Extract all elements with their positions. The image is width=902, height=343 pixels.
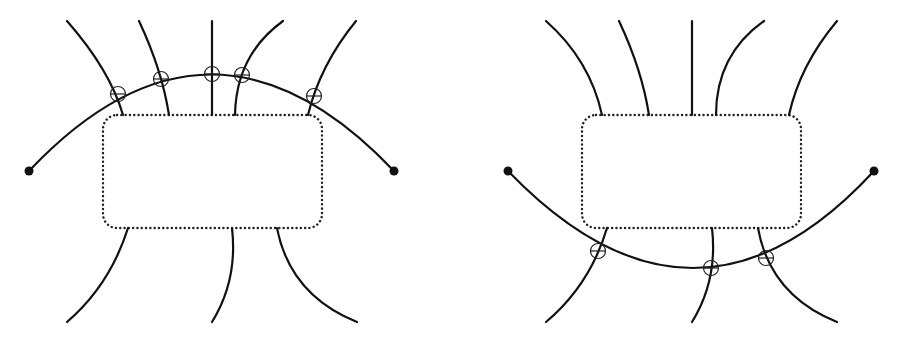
crossing-marker-icon bbox=[307, 89, 322, 104]
arc-curve bbox=[508, 171, 874, 268]
bottom-strand bbox=[758, 228, 837, 322]
top-strand bbox=[308, 21, 356, 115]
endpoint-dot bbox=[390, 167, 399, 176]
top-strand bbox=[789, 21, 837, 115]
right-panel bbox=[504, 21, 879, 322]
crossing-marker-icon bbox=[235, 68, 250, 83]
top-strand bbox=[619, 21, 649, 115]
dotted-region-box bbox=[103, 115, 322, 228]
diagram-svg bbox=[0, 0, 902, 343]
endpoint-dot bbox=[504, 167, 513, 176]
bottom-strand bbox=[277, 228, 357, 322]
left-panel bbox=[25, 21, 399, 322]
diagram-canvas bbox=[0, 0, 902, 343]
bottom-strand bbox=[67, 228, 128, 322]
endpoint-dot bbox=[25, 167, 34, 176]
top-strand bbox=[139, 21, 169, 115]
crossing-marker-icon bbox=[154, 72, 169, 87]
crossing-marker-icon bbox=[591, 244, 606, 259]
top-strand bbox=[716, 21, 764, 115]
top-strand bbox=[546, 21, 602, 115]
endpoint-dot bbox=[870, 167, 879, 176]
dotted-region-box bbox=[582, 115, 801, 228]
bottom-strand bbox=[212, 228, 233, 322]
